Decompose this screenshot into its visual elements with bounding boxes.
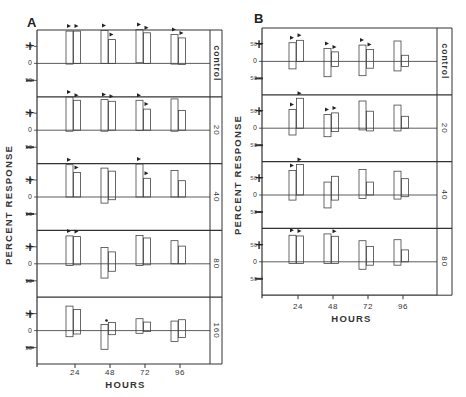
panel-a-row-40-ytick-label: 0 — [28, 193, 32, 200]
panel-b-row-80-bar-96h-right — [402, 250, 409, 262]
panel-b-row-20-ytick-label: 0 — [253, 124, 257, 131]
panel-b-row-control-label: control — [440, 43, 450, 79]
panel-b-row-control-plus-sign: + — [254, 37, 264, 51]
panel-b-row-20-label: 20 — [440, 123, 449, 134]
panel-b-row-20-bar-96h-right — [402, 116, 409, 128]
panel-b-row-control-significance-marker-icon — [325, 41, 329, 45]
panel-a-row-80-significance-marker-icon — [67, 229, 71, 233]
panel-b-row-control-ytick-label: 0 — [253, 57, 257, 64]
panel-b-row-20-minus-sign — [255, 144, 263, 146]
panel-a-row-80-plus-sign: + — [25, 240, 35, 254]
panel-b-row-40-bar-48h-right — [332, 176, 339, 200]
panel-b-letter: B — [254, 11, 263, 26]
panel-a-row-20-bar-48h-left — [101, 100, 108, 132]
panel-b-row-control-significance-marker-icon — [333, 45, 337, 49]
panel-b-row-control-bar-96h-left — [394, 41, 401, 71]
panel-a-row-control-plus-sign: + — [25, 39, 35, 53]
panel-b-row-80-significance-marker-icon — [298, 229, 302, 233]
panel-a-row-40-significance-marker-icon — [67, 158, 71, 162]
panel-b-row-80-bar-24h-left — [289, 235, 296, 263]
panel-b-row-40-significance-marker-icon — [290, 164, 294, 168]
panel-a-row-control-significance-marker-icon — [180, 31, 184, 35]
panel-a-row-80-bar-24h-left — [66, 236, 73, 266]
panel-a-xtick-label: 72 — [140, 368, 150, 377]
panel-a-row-20-significance-marker-icon — [67, 90, 71, 94]
panel-b-row-20-significance-marker-icon — [333, 106, 337, 110]
panel-a-row-control-label: control — [212, 45, 222, 81]
panel-a-row-20-bar-48h-right — [109, 101, 116, 130]
panel-a-row-20-minus-sign — [26, 146, 34, 148]
panel-b-xtick-label: 96 — [398, 302, 408, 311]
panel-a-row-160-ytick-label: 0 — [28, 327, 32, 334]
panel-a-row-20-bar-72h-right — [144, 109, 151, 130]
panel-b-row-40-minus-sign — [255, 211, 263, 213]
panel-a-row-20-bar-96h-right — [179, 110, 186, 130]
panel-a-row-control-ytick-label: 0 — [28, 59, 32, 66]
panel-a-row-20-label: 20 — [212, 125, 221, 136]
panel-b-row-20-bar-48h-right — [332, 113, 339, 132]
panel-a-xtick-label: 96 — [175, 368, 185, 377]
panel-b-x-axis-title: HOURS — [331, 313, 371, 324]
panel-b-row-80-bar-48h-right — [332, 236, 339, 263]
panel-a-row-40-bar-72h-right — [144, 178, 151, 197]
panel-b-row-40-plus-sign: + — [254, 171, 264, 185]
panel-a-row-160-bar-96h-left — [171, 321, 178, 341]
panel-a-xtick-label: 48 — [105, 368, 115, 377]
panel-b-row-40-bar-72h-left — [359, 170, 366, 199]
panel-a-row-20-significance-marker-icon — [110, 94, 114, 98]
panel-b-row-40-bar-24h-left — [289, 171, 296, 201]
panel-a-row-20-significance-marker-icon — [102, 93, 106, 97]
panel-a-row-80-bar-48h-left — [101, 247, 108, 278]
panel-b-row-40-bar-96h-right — [402, 179, 409, 197]
panel-b-row-80-ytick-label: 0 — [253, 258, 257, 265]
panel-a-row-40-significance-marker-icon — [137, 157, 141, 161]
panel-a-row-160-bar-96h-right — [179, 320, 186, 338]
panel-a-row-80-bar-24h-right — [74, 237, 81, 265]
panel-b-row-80-bar-96h-left — [394, 240, 401, 266]
panel-b-row-40-ytick-label: 0 — [253, 191, 257, 198]
panel-a-row-control-significance-marker-icon — [75, 24, 79, 28]
panel-a-row-control-bar-96h-right — [179, 38, 186, 65]
panel-a-row-20-significance-marker-icon — [145, 102, 149, 106]
panel-b-row-control-bar-48h-left — [324, 48, 331, 76]
panel-b-row-20-significance-marker-icon — [325, 108, 329, 112]
panel-a-row-20-bar-96h-left — [171, 99, 178, 131]
panel-b-row-20-bar-24h-left — [289, 110, 296, 136]
panel-a-row-control-bar-24h-right — [74, 31, 81, 63]
panel-a-row-160-minus-sign — [26, 347, 34, 349]
panel-a-row-control-bar-48h-left — [101, 30, 108, 63]
panel-a-row-control-significance-marker-icon — [110, 33, 114, 37]
panel-a-row-160-bar-72h-left — [136, 319, 143, 334]
panel-a-row-40-label: 40 — [212, 192, 221, 203]
panel-b-row-20-plus-sign: + — [254, 104, 264, 118]
panel-b-row-control-significance-marker-icon — [368, 43, 372, 47]
panel-a-row-control-significance-marker-icon — [67, 24, 71, 28]
panel-b-row-control-significance-marker-icon — [290, 36, 294, 40]
panel-a-row-control-significance-marker-icon — [172, 28, 176, 32]
figure: A50050+control50050+2050050+4050050+8050… — [0, 0, 466, 397]
panel-b-row-80-bar-72h-right — [367, 247, 374, 266]
panel-b-row-40-bar-72h-right — [367, 182, 374, 195]
panel-a-row-control-bar-72h-right — [144, 33, 151, 64]
panel-b-row-20-bar-96h-left — [394, 105, 401, 131]
panel-b-xtick-label: 48 — [328, 302, 338, 311]
panel-a-row-40-significance-marker-icon — [75, 166, 79, 170]
panel-b-xtick-label: 24 — [293, 302, 303, 311]
panel-b-row-control-bar-72h-right — [367, 50, 374, 69]
panel-a-row-control-significance-marker-icon — [137, 22, 141, 26]
panel-a-row-160-bar-72h-right — [144, 322, 151, 332]
panel-a-row-80-bar-96h-left — [171, 241, 178, 264]
panel-b-xtick-label: 72 — [363, 302, 373, 311]
panel-b-row-control-bar-24h-right — [297, 40, 304, 61]
panel-a-row-40-bar-96h-right — [179, 181, 186, 197]
panel-a-row-control-minus-sign — [26, 79, 34, 81]
panel-b-row-20-bar-48h-left — [324, 115, 331, 137]
panel-a-row-160-bar-48h-right — [109, 322, 116, 334]
panel-a-row-20-bar-24h-left — [66, 97, 73, 131]
panel-a-row-40-bar-24h-left — [66, 165, 73, 197]
panel-a-y-axis-title: PERCENT RESPONSE — [3, 145, 14, 265]
panel-a-row-20-plus-sign: + — [25, 106, 35, 120]
panel-b-row-80-significance-marker-icon — [333, 229, 337, 233]
panel-b-row-40-bar-24h-right — [297, 164, 304, 195]
panel-a-letter: A — [27, 15, 37, 30]
